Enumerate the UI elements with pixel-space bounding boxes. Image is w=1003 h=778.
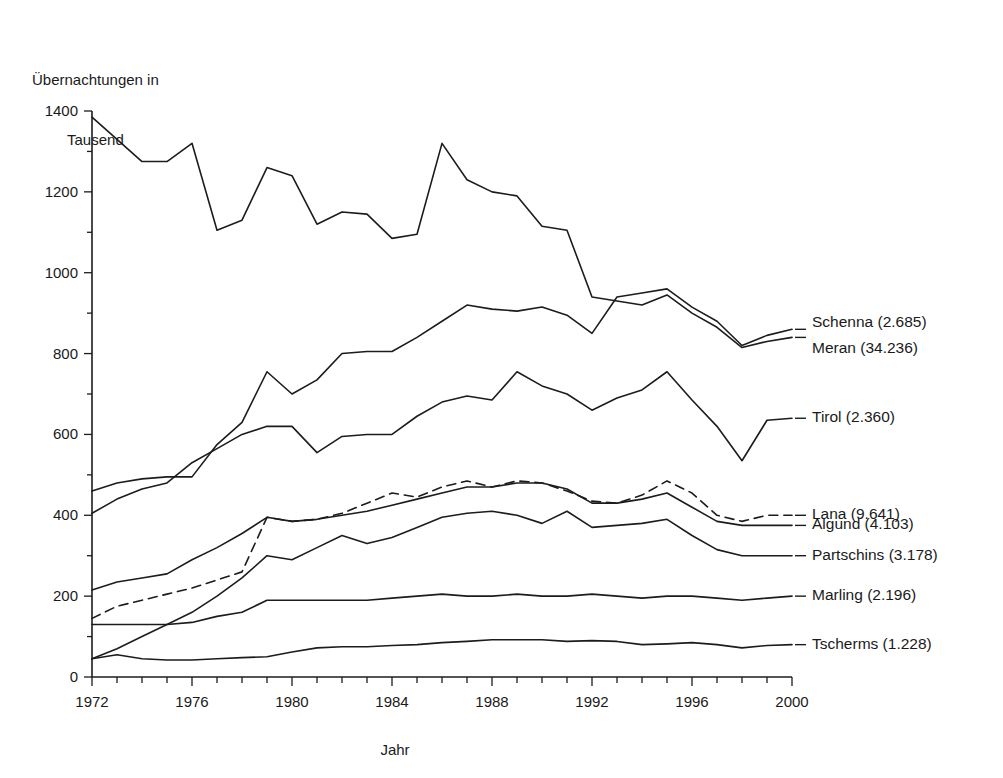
x-tick-label: 1980 <box>275 693 308 710</box>
y-tick-label: 800 <box>53 345 78 362</box>
tick-marks <box>84 111 792 686</box>
y-axis-title-line-2: Tausend <box>32 130 159 150</box>
x-tick-label: 1972 <box>75 693 108 710</box>
x-axis-title: Jahr <box>0 740 790 760</box>
x-tick-label: 1988 <box>475 693 508 710</box>
series-line-algund <box>92 483 792 590</box>
legend-label-partschins: Partschins (3.178) <box>812 546 938 563</box>
series-line-lana <box>92 481 792 618</box>
y-tick-label: 200 <box>53 587 78 604</box>
legend-label-schenna: Schenna (2.685) <box>812 313 927 330</box>
legend-label-tscherms: Tscherms (1.228) <box>812 635 932 652</box>
x-tick-label: 1996 <box>675 693 708 710</box>
legend-label-tirol: Tirol (2.360) <box>812 408 895 425</box>
legend-label-marling: Marling (2.196) <box>812 586 916 603</box>
x-tick-label: 1976 <box>175 693 208 710</box>
line-chart: Übernachtungen in Tausend Jahr 020040060… <box>0 0 1003 778</box>
y-axis-title: Übernachtungen in Tausend <box>32 30 159 190</box>
x-tick-label: 2000 <box>775 693 808 710</box>
x-tick-label: 1992 <box>575 693 608 710</box>
x-tick-label: 1984 <box>375 693 408 710</box>
y-axis-title-line-1: Übernachtungen in <box>32 70 159 90</box>
y-tick-label: 400 <box>53 506 78 523</box>
series-line-tirol <box>92 372 792 514</box>
legend: Schenna (2.685)Meran (34.236)Tirol (2.36… <box>795 313 938 651</box>
series-line-tscherms <box>92 640 792 660</box>
series-line-meran <box>92 117 792 347</box>
y-tick-label: 0 <box>70 668 78 685</box>
data-series <box>92 117 792 660</box>
legend-label-meran: Meran (34.236) <box>812 339 918 356</box>
series-line-partschins <box>92 511 792 659</box>
y-tick-label: 1000 <box>45 264 78 281</box>
legend-label-algund: Algund (4.103) <box>812 515 914 532</box>
tick-labels: 0200400600800100012001400197219761980198… <box>45 102 809 710</box>
y-tick-label: 600 <box>53 425 78 442</box>
